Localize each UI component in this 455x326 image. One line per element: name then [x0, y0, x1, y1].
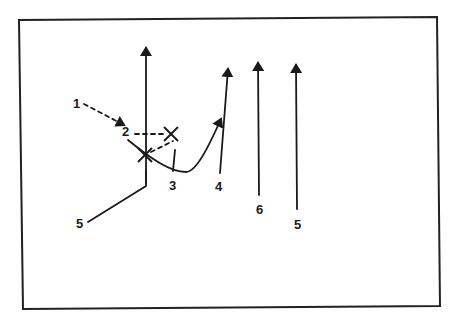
label-5-left: 5	[76, 216, 83, 231]
route-1-dashed	[84, 104, 124, 125]
route-5-right	[296, 65, 297, 209]
play-diagram-canvas: 1234565	[0, 0, 455, 326]
routes-layer	[84, 48, 297, 222]
markers-layer	[138, 127, 178, 162]
route-6	[258, 63, 259, 195]
x-marker-upper	[164, 127, 178, 141]
x-marker-lower	[138, 148, 152, 162]
route-x-to-x-dashed	[151, 141, 173, 152]
label-1: 1	[73, 96, 80, 111]
label-5-right: 5	[294, 217, 301, 232]
route-3-stem	[173, 150, 175, 171]
label-6: 6	[256, 202, 263, 217]
diagram-frame	[19, 17, 440, 309]
label-3: 3	[169, 178, 176, 193]
route-4	[220, 69, 228, 173]
route-5-left	[88, 170, 146, 222]
label-4: 4	[215, 179, 223, 194]
label-2: 2	[122, 124, 129, 139]
